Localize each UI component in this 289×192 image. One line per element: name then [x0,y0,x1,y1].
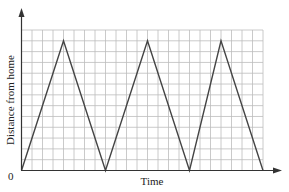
grid-lines [22,30,264,171]
y-axis-label: Distance from home [4,55,16,145]
y-axis-arrow-icon [19,8,25,17]
x-axis-arrow-icon [273,168,282,174]
x-axis-label: Time [141,175,164,187]
origin-label: 0 [8,170,14,182]
distance-time-graph [0,0,289,192]
